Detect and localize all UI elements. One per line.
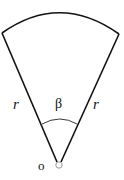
left-radius-line <box>2 33 57 162</box>
angle-label: β <box>55 96 62 111</box>
vertex-circle <box>56 162 62 168</box>
right-radius-line <box>61 34 119 162</box>
left-radius-label: r <box>13 96 19 112</box>
sector-outer-arc <box>2 13 119 34</box>
right-radius-label: r <box>93 96 99 112</box>
vertex-label: o <box>38 158 45 173</box>
angle-arc <box>42 119 77 124</box>
sector-diagram: r β r o <box>0 0 124 180</box>
